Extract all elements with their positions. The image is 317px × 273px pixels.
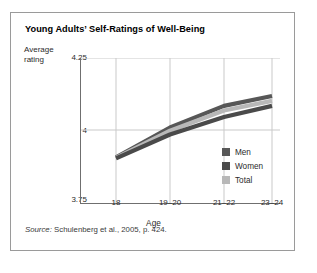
legend-item-women: Women bbox=[222, 160, 263, 172]
legend-swatch-women-icon bbox=[222, 162, 230, 170]
y-axis-label: Average rating bbox=[24, 45, 66, 64]
legend-label-total: Total bbox=[235, 176, 252, 185]
legend-label-men: Men bbox=[235, 148, 251, 157]
plot-area: Men Women Total bbox=[80, 58, 280, 204]
source-prefix: Source: bbox=[25, 225, 52, 234]
y-axis-label-line1: Average bbox=[24, 45, 66, 55]
legend-item-total: Total bbox=[222, 174, 263, 186]
figure-container: Young Adults’ Self-Ratings of Well-Being… bbox=[10, 12, 295, 251]
chart-title: Young Adults’ Self-Ratings of Well-Being bbox=[25, 24, 205, 34]
x-tick-label-0: 18 bbox=[96, 198, 136, 207]
source-note: Source: Schulenberg et al., 2005, p. 424… bbox=[25, 225, 167, 234]
x-tick-label-3: 23–24 bbox=[252, 198, 292, 207]
x-tick-label-1: 19–20 bbox=[150, 198, 190, 207]
chart-legend: Men Women Total bbox=[222, 146, 263, 188]
legend-swatch-men-icon bbox=[222, 148, 230, 156]
legend-item-men: Men bbox=[222, 146, 263, 158]
x-tick-label-2: 21–22 bbox=[204, 198, 244, 207]
legend-swatch-total-icon bbox=[222, 176, 230, 184]
y-axis-label-line2: rating bbox=[24, 55, 66, 65]
legend-label-women: Women bbox=[235, 162, 263, 171]
source-text: Schulenberg et al., 2005, p. 424. bbox=[52, 225, 167, 234]
